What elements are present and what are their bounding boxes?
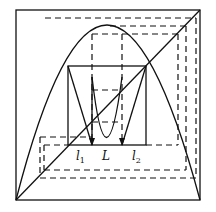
cobweb-diagram: l1 L l2 xyxy=(0,0,216,212)
label-l1: l1 xyxy=(76,149,85,165)
main-parabola xyxy=(16,25,200,200)
diagonal-line xyxy=(16,10,200,200)
label-l2: l2 xyxy=(132,149,141,165)
second-iterate-curve xyxy=(92,77,122,138)
label-L: L xyxy=(101,149,110,163)
